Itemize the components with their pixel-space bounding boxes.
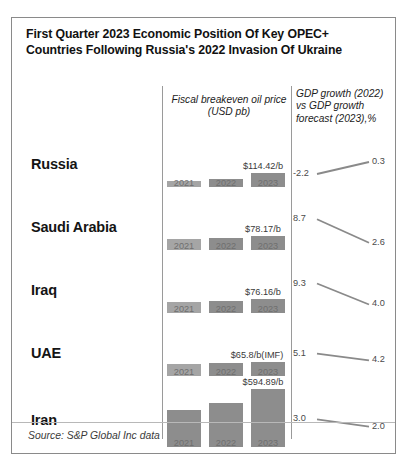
- country-row: UAE202120222023$65.8/b(IMF)5.14.2: [12, 325, 395, 389]
- bar-group-2023: 2023: [251, 299, 285, 313]
- bar-year-label: 2023: [251, 304, 285, 314]
- column-header-gdp-line3: forecast (2023),%: [296, 113, 400, 125]
- gdp-trend-line-icon: [293, 262, 395, 326]
- gdp-2023-value: 4.2: [372, 354, 385, 364]
- country-row: Saudi Arabia202120222023$78.17/b8.72.6: [12, 199, 395, 263]
- bar-year-label: 2021: [167, 367, 201, 377]
- bar-year-label: 2022: [209, 438, 243, 448]
- column-header-oil-price-line2: (USD pb): [169, 106, 289, 118]
- bar-group-2021: 2021: [167, 364, 201, 376]
- gdp-slope-chart: 5.14.2: [293, 325, 395, 389]
- gdp-slope-chart: 8.72.6: [293, 199, 395, 263]
- column-header-gdp-growth: GDP growth (2022) vs GDP growth forecast…: [296, 88, 400, 125]
- column-header-gdp-line2: vs GDP growth: [296, 100, 400, 112]
- country-row: Iran202120222023$594.89/b3.02.0: [12, 382, 395, 460]
- gdp-2023-value: 0.3: [372, 156, 385, 166]
- bar-group-2022: 2022: [209, 179, 243, 187]
- bar-group-2022: 2022: [209, 403, 243, 447]
- gdp-trend-line-icon: [293, 199, 395, 263]
- column-header-oil-price: Fiscal breakeven oil price (USD pb): [169, 94, 289, 119]
- oil-price-bars: 202120222023$594.89/b: [164, 382, 290, 460]
- bar-group-2021: 2021: [167, 302, 201, 313]
- footer-divider: [12, 422, 395, 423]
- gdp-2022-value: 5.1: [293, 348, 306, 358]
- oil-price-bars: 202120222023$78.17/b: [164, 199, 290, 263]
- bar-year-label: 2022: [209, 241, 243, 251]
- bar-year-label: 2022: [209, 367, 243, 377]
- bar-year-label: 2023: [251, 178, 285, 188]
- oil-price-bars: 202120222023$76.16/b: [164, 262, 290, 326]
- country-label-iraq: Iraq: [31, 282, 159, 298]
- bar-year-label: 2021: [167, 304, 201, 314]
- gdp-2023-value: 4.0: [372, 298, 385, 308]
- bar-group-2022: 2022: [209, 238, 243, 250]
- country-label-iran: Iran: [31, 412, 159, 428]
- gdp-2022-value: -2.2: [293, 168, 309, 178]
- bar-value-label: $78.17/b: [236, 224, 290, 234]
- bar-year-label: 2023: [251, 241, 285, 251]
- bar-group-2021: 2021: [167, 181, 201, 187]
- bar-group-2021: 2021: [167, 239, 201, 250]
- gdp-slope-chart: -2.20.3: [293, 136, 395, 200]
- page-title: First Quarter 2023 Economic Position Of …: [26, 27, 376, 58]
- bar-value-label: $65.8/b(IMF): [222, 350, 292, 360]
- bar-group-2023: 2023: [251, 362, 285, 376]
- bar-year-label: 2023: [251, 367, 285, 377]
- country-row: Russia202120222023$114.42/b-2.20.3: [12, 136, 395, 200]
- gdp-2022-value: 8.7: [293, 213, 306, 223]
- bar-year-label: 2022: [209, 178, 243, 188]
- bar-year-label: 2021: [167, 178, 201, 188]
- bar-group-2021: 2021: [167, 410, 201, 447]
- gdp-2022-value: 9.3: [293, 278, 306, 288]
- bar-value-label: $594.89/b: [236, 377, 290, 387]
- column-header-gdp-line1: GDP growth (2022): [296, 88, 400, 100]
- country-label-uae: UAE: [31, 345, 159, 361]
- bar-year-label: 2021: [167, 438, 201, 448]
- column-header-oil-price-line1: Fiscal breakeven oil price: [169, 94, 289, 106]
- gdp-2023-value: 2.6: [372, 237, 385, 247]
- oil-price-bars: 202120222023$114.42/b: [164, 136, 290, 200]
- bar-group-2023: 2023: [251, 173, 285, 187]
- source-note: Source: S&P Global Inc data: [28, 430, 160, 441]
- bar-value-label: $114.42/b: [236, 161, 290, 171]
- gdp-slope-chart: 9.34.0: [293, 262, 395, 326]
- gdp-slope-chart: 3.02.0: [293, 382, 395, 460]
- bar-value-label: $76.16/b: [236, 287, 290, 297]
- country-row: Iraq202120222023$76.16/b9.34.0: [12, 262, 395, 326]
- country-label-saudi-arabia: Saudi Arabia: [31, 219, 159, 235]
- bar-year-label: 2021: [167, 241, 201, 251]
- infographic-panel: First Quarter 2023 Economic Position Of …: [11, 17, 396, 454]
- bar-group-2022: 2022: [209, 363, 243, 376]
- bar-year-label: 2023: [251, 438, 285, 448]
- bar-group-2022: 2022: [209, 301, 243, 313]
- bar-group-2023: 2023: [251, 389, 285, 447]
- bar-group-2023: 2023: [251, 236, 285, 250]
- bar-year-label: 2022: [209, 304, 243, 314]
- country-label-russia: Russia: [31, 156, 159, 172]
